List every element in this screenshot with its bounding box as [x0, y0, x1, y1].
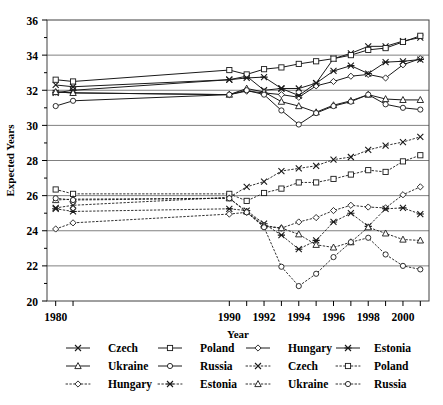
legend-marker-circle — [345, 381, 350, 386]
data-point-1980 — [53, 77, 58, 82]
chart-figure: 202224262830323436 198019901992199419961… — [0, 0, 443, 405]
legend-label: Hungary — [288, 342, 332, 355]
data-point-1995 — [314, 110, 319, 115]
y-tick-label-34: 34 — [27, 50, 39, 62]
data-point-1980 — [53, 187, 58, 192]
x-tick-label-1990: 1990 — [218, 311, 241, 323]
data-point-2000 — [400, 159, 405, 164]
y-tick-label-36: 36 — [27, 15, 39, 27]
data-point-2000 — [400, 105, 405, 110]
data-point-1995 — [314, 59, 319, 64]
data-point-1981 — [70, 197, 75, 202]
y-tick-label-20: 20 — [27, 296, 39, 308]
data-point-1990 — [227, 196, 232, 201]
legend-label: Poland — [200, 342, 235, 354]
data-point-1980 — [53, 196, 58, 201]
data-point-1992 — [261, 225, 266, 230]
legend-label: Russia — [200, 360, 233, 372]
data-point-1981 — [70, 79, 75, 84]
legend-label: Czech — [108, 342, 139, 354]
data-point-1991 — [244, 210, 249, 215]
data-point-1992 — [261, 92, 266, 97]
data-point-2000 — [400, 39, 405, 44]
data-point-1998 — [366, 47, 371, 52]
data-point-1996 — [331, 103, 336, 108]
data-point-1999 — [383, 169, 388, 174]
data-point-1993 — [279, 65, 284, 70]
data-point-1999 — [383, 102, 388, 107]
data-point-1999 — [383, 46, 388, 51]
x-tick-label-1980: 1980 — [44, 311, 67, 323]
x-tick-label-1994: 1994 — [287, 311, 310, 323]
data-point-1996 — [331, 176, 336, 181]
data-point-1998 — [366, 235, 371, 240]
data-point-1996 — [331, 254, 336, 259]
data-point-1997 — [348, 53, 353, 58]
data-point-2001 — [418, 33, 423, 38]
data-point-1990 — [227, 67, 232, 72]
data-point-1994 — [296, 283, 301, 288]
data-point-1994 — [296, 122, 301, 127]
data-point-1994 — [296, 61, 301, 66]
data-point-1990 — [227, 92, 232, 97]
y-tick-label-22: 22 — [27, 260, 39, 272]
y-axis-title: Expected Years — [4, 124, 16, 197]
data-point-1993 — [279, 264, 284, 269]
legend-marker-square — [167, 345, 172, 350]
y-tick-label-32: 32 — [27, 85, 39, 97]
legend-label: Estonia — [200, 378, 237, 390]
y-tick-label-30: 30 — [27, 120, 39, 132]
data-point-1997 — [348, 240, 353, 245]
data-point-1993 — [279, 186, 284, 191]
x-tick-label-1992: 1992 — [253, 311, 276, 323]
data-point-2000 — [400, 263, 405, 268]
y-tick-label-28: 28 — [27, 155, 39, 167]
data-point-2001 — [418, 107, 423, 112]
data-point-1992 — [261, 67, 266, 72]
data-point-1992 — [261, 190, 266, 195]
data-point-1998 — [366, 92, 371, 97]
data-point-1997 — [348, 172, 353, 177]
data-point-2001 — [418, 153, 423, 158]
expected-years-line-chart: 202224262830323436 198019901992199419961… — [0, 0, 443, 405]
legend-label: Poland — [374, 360, 409, 372]
data-point-1995 — [314, 271, 319, 276]
x-tick-label-1996: 1996 — [322, 311, 345, 323]
data-point-2001 — [418, 267, 423, 272]
legend-label: Ukraine — [108, 360, 148, 372]
legend-label: Hungary — [108, 378, 152, 391]
y-tick-label-26: 26 — [27, 190, 39, 202]
data-point-1994 — [296, 180, 301, 185]
data-point-1997 — [348, 99, 353, 104]
legend-label: Russia — [374, 378, 407, 390]
x-tick-label-2000: 2000 — [391, 311, 414, 323]
data-point-1991 — [244, 198, 249, 203]
legend-label: Ukraine — [288, 378, 328, 390]
data-point-1980 — [53, 103, 58, 108]
x-axis-title: Year — [227, 328, 249, 340]
data-point-1991 — [244, 88, 249, 93]
y-tick-label-24: 24 — [27, 225, 39, 237]
legend-label: Estonia — [374, 342, 411, 354]
data-point-1996 — [331, 56, 336, 61]
data-point-1993 — [279, 108, 284, 113]
data-point-1981 — [70, 98, 75, 103]
legend-marker-circle — [167, 363, 172, 368]
data-point-1998 — [366, 168, 371, 173]
data-point-1999 — [383, 252, 388, 257]
legend-marker-square — [345, 363, 350, 368]
legend-label: Czech — [288, 360, 319, 372]
x-tick-label-1998: 1998 — [357, 311, 380, 323]
data-point-1995 — [314, 180, 319, 185]
